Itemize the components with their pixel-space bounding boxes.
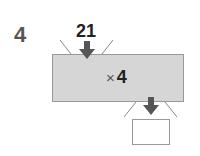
down-arrow-icon bbox=[143, 97, 159, 115]
down-arrow-icon bbox=[79, 41, 95, 59]
answer-box[interactable] bbox=[132, 119, 170, 145]
arrows bbox=[0, 0, 200, 156]
